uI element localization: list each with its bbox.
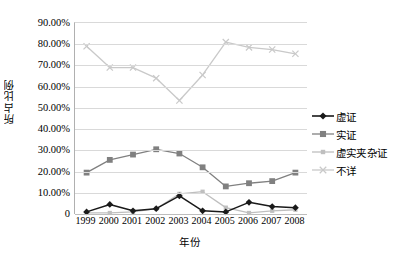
y-axis-tick-labels: 010.00%20.00%30.00%40.00%50.00%60.00%70.… [18, 0, 72, 277]
data-point-marker [176, 97, 182, 103]
x-axis-tick-label: 2002 [145, 215, 165, 226]
x-axis-tick-labels: 1999200020012002200320042005200620072008 [74, 215, 306, 231]
data-point-marker [107, 157, 113, 163]
data-point-marker [106, 201, 113, 208]
data-point-marker [320, 131, 326, 137]
y-axis-tick-label: 20.00% [38, 165, 70, 176]
y-axis-title: 所占比例 [2, 78, 18, 124]
y-axis-tick-label: 0 [65, 208, 70, 219]
x-axis-tick-label: 2004 [192, 215, 212, 226]
gridline [75, 87, 307, 88]
x-axis-tick-label: 2003 [168, 215, 188, 226]
data-point-marker [319, 112, 326, 119]
gridline [75, 65, 307, 66]
x-axis-tick-label: 1999 [76, 215, 96, 226]
data-point-marker [223, 184, 229, 190]
legend-marker-icon [312, 128, 334, 140]
gridline [75, 193, 307, 194]
series-line [87, 149, 296, 186]
legend-item-0[interactable]: 虚证 [312, 108, 404, 124]
data-point-marker [269, 203, 276, 210]
data-point-marker [177, 151, 183, 157]
x-axis-tick-label: 2006 [238, 215, 258, 226]
y-axis-tick-label: 60.00% [38, 80, 70, 91]
x-axis-tick-label: 2008 [284, 215, 304, 226]
x-axis-tick-label: 2007 [261, 215, 281, 226]
y-axis-tick-label: 30.00% [38, 144, 70, 155]
legend-marker-icon [312, 110, 334, 122]
legend-marker-icon [312, 164, 334, 176]
series-canvas [75, 23, 307, 214]
y-axis-tick-label: 10.00% [38, 186, 70, 197]
data-point-marker [321, 150, 325, 154]
legend-item-3[interactable]: 不详 [312, 162, 404, 178]
data-point-marker [130, 152, 136, 158]
legend-marker-icon [312, 146, 334, 158]
legend-label: 实证 [334, 127, 356, 142]
legend-label: 虚实夹杂证 [334, 145, 387, 160]
gridline [75, 44, 307, 45]
data-point-marker [246, 199, 253, 206]
series-3 [84, 39, 299, 104]
x-axis-tick-label: 2000 [99, 215, 119, 226]
y-axis-tick-label: 90.00% [38, 17, 70, 28]
data-point-marker [153, 75, 159, 81]
x-axis-tick-label: 2005 [215, 215, 235, 226]
data-point-marker [200, 164, 206, 170]
legend-label: 不详 [334, 163, 356, 178]
data-point-marker [246, 180, 252, 186]
series-line [87, 192, 296, 213]
y-axis-tick-label: 70.00% [38, 59, 70, 70]
gridline [75, 172, 307, 173]
x-axis-tick-label: 2001 [122, 215, 142, 226]
data-point-marker [269, 178, 275, 184]
legend-item-2[interactable]: 虚实夹杂证 [312, 144, 404, 160]
data-point-marker [153, 205, 160, 212]
y-axis-tick-label: 40.00% [38, 123, 70, 134]
legend: 虚证实证虚实夹杂证不详 [312, 108, 404, 180]
data-point-marker [200, 72, 206, 78]
series-line [87, 196, 296, 212]
line-chart: 所占比例 010.00%20.00%30.00%40.00%50.00%60.0… [0, 0, 406, 277]
gridline [75, 108, 307, 109]
gridline [75, 129, 307, 130]
x-axis-title: 年份 [74, 234, 306, 249]
legend-label: 虚证 [334, 109, 356, 124]
series-line [87, 42, 296, 100]
gridline [75, 150, 307, 151]
series-1 [84, 146, 299, 189]
legend-item-1[interactable]: 实证 [312, 126, 404, 142]
y-axis-tick-label: 80.00% [38, 38, 70, 49]
plot-area [74, 22, 307, 214]
y-axis-tick-label: 50.00% [38, 101, 70, 112]
